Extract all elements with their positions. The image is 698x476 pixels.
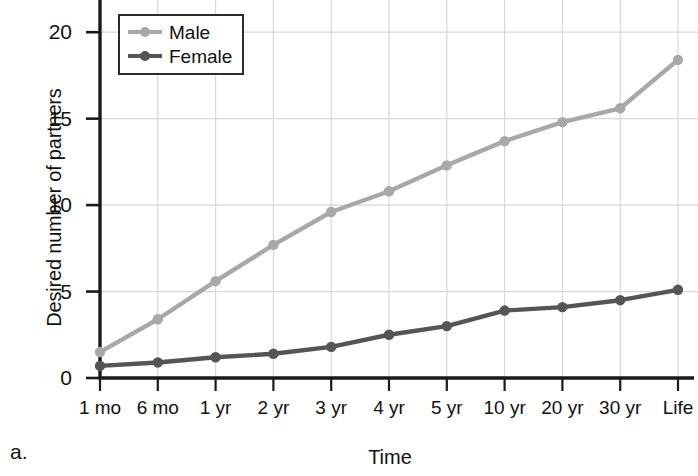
- data-point-female: [615, 295, 625, 305]
- data-point-male: [326, 207, 336, 217]
- legend-item-female: Female: [128, 44, 232, 68]
- legend-swatch-icon: [128, 48, 162, 64]
- data-point-male: [615, 103, 625, 113]
- data-point-female: [268, 349, 278, 359]
- data-point-male: [268, 240, 278, 250]
- data-point-male: [499, 136, 509, 146]
- data-point-female: [673, 285, 683, 295]
- data-point-male: [557, 117, 567, 127]
- plot-area: [0, 0, 698, 476]
- data-point-female: [499, 305, 509, 315]
- legend-swatch-icon: [128, 24, 162, 40]
- legend-label: Female: [169, 47, 232, 66]
- data-point-male: [442, 160, 452, 170]
- data-point-female: [210, 352, 220, 362]
- data-point-male: [673, 55, 683, 65]
- data-point-female: [153, 357, 163, 367]
- data-point-female: [442, 321, 452, 331]
- data-point-male: [384, 186, 394, 196]
- legend-label: Male: [169, 23, 210, 42]
- data-point-male: [210, 276, 220, 286]
- data-point-female: [557, 302, 567, 312]
- legend-item-male: Male: [128, 20, 232, 44]
- chart-figure: Desired number of partners Time a. 05101…: [0, 0, 698, 476]
- chart-legend: MaleFemale: [118, 14, 244, 75]
- data-point-female: [384, 330, 394, 340]
- data-point-male: [95, 347, 105, 357]
- data-point-female: [326, 342, 336, 352]
- data-point-male: [153, 314, 163, 324]
- data-point-female: [95, 361, 105, 371]
